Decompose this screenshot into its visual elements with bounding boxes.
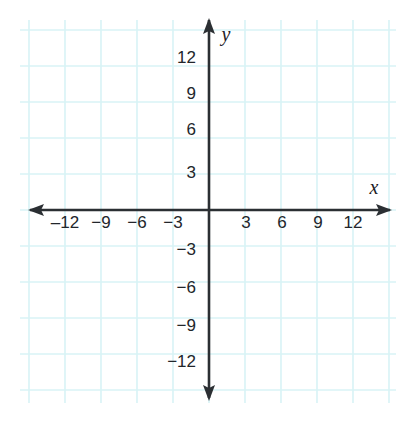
- y-tick-label: 6: [187, 120, 196, 139]
- y-tick-label: −12: [167, 352, 196, 371]
- x-tick-label: ‒12: [51, 213, 79, 232]
- x-tick-label: 6: [277, 213, 286, 232]
- x-tick-label: 12: [344, 213, 363, 232]
- x-tick-label: 3: [241, 213, 250, 232]
- y-axis-label: y: [220, 23, 231, 46]
- y-tick-label: 12: [177, 48, 196, 67]
- y-tick-label: 3: [187, 163, 196, 182]
- coordinate-plane-svg: x y ‒12−9−6−336912 12963−3−6−9−12: [0, 0, 416, 423]
- y-tick-label: −9: [177, 316, 196, 335]
- x-axis-label: x: [369, 176, 379, 198]
- y-tick-label: 9: [187, 84, 196, 103]
- coordinate-plane-graph: x y ‒12−9−6−336912 12963−3−6−9−12: [0, 0, 416, 423]
- x-tick-label: 9: [313, 213, 322, 232]
- x-tick-label: −3: [163, 213, 182, 232]
- x-tick-label: −6: [127, 213, 146, 232]
- y-tick-label: −6: [177, 278, 196, 297]
- x-tick-label: −9: [91, 213, 110, 232]
- y-tick-label: −3: [177, 240, 196, 259]
